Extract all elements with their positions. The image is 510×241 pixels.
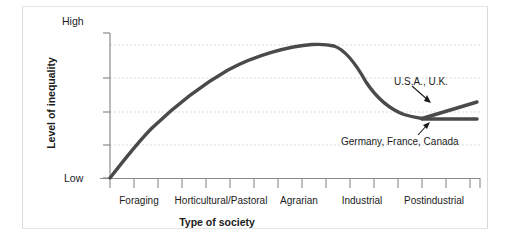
- x-tick-label-industrial: Industrial: [327, 195, 397, 206]
- annotation-arrow-usa-uk: [412, 86, 431, 103]
- series-line-usa-uk: [422, 102, 477, 119]
- x-axis-title-text: Type of society: [179, 216, 255, 228]
- chart-figure: High Low Level of inequality Foraging Ho…: [0, 0, 510, 241]
- annotation-label-usa-uk: U.S.A., U.K.: [394, 76, 448, 87]
- y-axis-ticks: [103, 33, 110, 178]
- x-tick-label-postindustrial: Postindustrial: [389, 195, 479, 206]
- y-axis-title: Level of inequality: [45, 43, 57, 163]
- y-axis-high-label: High: [62, 16, 84, 27]
- annotation-arrow-germany-france-canada: [418, 122, 430, 135]
- grid-lines: [110, 45, 480, 145]
- x-axis-title: Type of society: [0, 216, 510, 228]
- x-axis-ticks: [110, 178, 480, 188]
- series-line-kuznets: [110, 44, 422, 178]
- x-tick-label-agrarian: Agrarian: [264, 195, 334, 206]
- annotation-label-germany-france-canada: Germany, France, Canada: [341, 136, 459, 147]
- y-axis-low-label: Low: [64, 173, 83, 184]
